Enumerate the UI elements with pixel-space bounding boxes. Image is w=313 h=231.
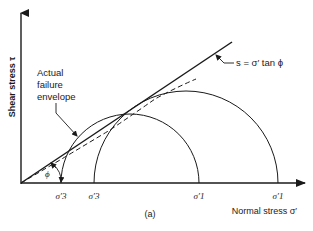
actual-envelope-label-line3: envelope [37,91,76,102]
sigma1-label-small: σ′1 [194,191,205,201]
actual-envelope-leader [56,103,77,136]
phi-label: ϕ [45,169,50,179]
large-mohr-circle [94,91,278,183]
actual-envelope-label-line1: Actual [37,67,63,78]
mohr-coulomb-diagram: Shear stress τ Actual failure envelope s… [0,0,313,231]
failure-envelope-line [21,42,232,183]
sigma1-label-large: σ′1 [273,191,284,201]
phi-angle-arc-upper [51,163,56,168]
line-equation-label: s = σ′ tan ϕ [236,57,283,68]
sigma3-label-large: σ′3 [89,191,100,201]
line-eq-leader [216,55,234,63]
y-axis-label: Shear stress τ [7,57,17,118]
sigma3-label-small: σ′3 [56,191,67,201]
small-mohr-circle [61,114,199,183]
x-axis-label: Normal stress σ′ [232,206,298,216]
actual-envelope-label-line2: failure [37,79,63,90]
figure-caption: (a) [145,209,156,219]
